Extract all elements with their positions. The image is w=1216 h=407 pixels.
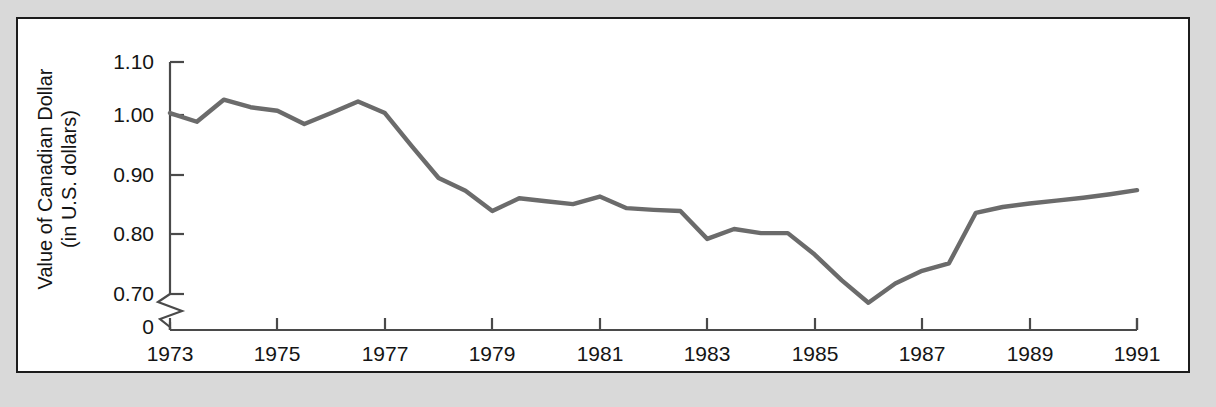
x-tick-label-1983: 1983	[684, 342, 731, 365]
x-tick-label-1989: 1989	[1007, 342, 1054, 365]
figure-root: Value of Canadian Dollar (in U.S. dollar…	[0, 0, 1216, 407]
y-axis-title-line2: (in U.S. dollars)	[58, 110, 80, 248]
y-tick-label-0: 0	[142, 315, 154, 338]
x-tick-label-1977: 1977	[362, 342, 409, 365]
x-tick-label-1981: 1981	[577, 342, 624, 365]
x-tick-label-1991: 1991	[1114, 342, 1161, 365]
y-axis-title-line1: Value of Canadian Dollar	[34, 68, 56, 289]
x-tick-label-1975: 1975	[254, 342, 301, 365]
x-tick-label-1979: 1979	[469, 342, 516, 365]
x-tick-label-1987: 1987	[899, 342, 946, 365]
y-tick-label-0.80: 0.80	[113, 222, 154, 245]
y-tick-label-1.10: 1.10	[113, 50, 154, 73]
y-tick-label-0.70: 0.70	[113, 282, 154, 305]
y-tick-label-1.00: 1.00	[113, 103, 154, 126]
chart-panel: Value of Canadian Dollar (in U.S. dollar…	[16, 17, 1190, 373]
x-tick-label-1985: 1985	[792, 342, 839, 365]
line-chart: Value of Canadian Dollar (in U.S. dollar…	[18, 19, 1188, 371]
y-tick-label-0.90: 0.90	[113, 163, 154, 186]
x-tick-label-1973: 1973	[147, 342, 194, 365]
data-series-line	[170, 100, 1137, 303]
